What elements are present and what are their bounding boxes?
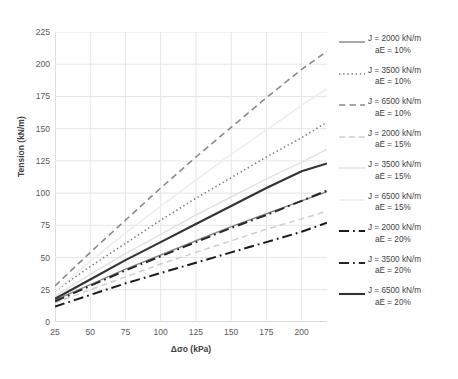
legend-item-4[interactable]: J = 2000 kN/maE = 15%	[339, 128, 456, 152]
legend-item-6[interactable]: J = 6500 kN/maE = 15%	[339, 191, 456, 215]
x-tick-label: 25	[50, 327, 59, 337]
y-tick-label: 75	[41, 220, 50, 230]
legend-swatch-icon	[339, 97, 365, 113]
legend-label: J = 3500 kN/maE = 15%	[368, 159, 421, 182]
chart-legend: J = 2000 kN/maE = 10%J = 3500 kN/maE = 1…	[339, 33, 456, 317]
y-tick-label: 225	[36, 27, 50, 37]
y-tick-label: 0	[45, 317, 50, 327]
x-tick-label: 125	[189, 327, 203, 337]
x-tick-label: 75	[121, 327, 130, 337]
x-tick-label: 150	[224, 327, 238, 337]
series-line-7	[55, 223, 327, 307]
legend-swatch-icon	[339, 192, 365, 208]
x-tick-label: 175	[259, 327, 273, 337]
series-line-6	[55, 89, 327, 291]
legend-label: J = 2000 kN/maE = 15%	[368, 128, 421, 151]
legend-item-9[interactable]: J = 6500 kN/maE = 20%	[339, 285, 456, 309]
series-line-3	[55, 51, 327, 286]
x-tick-label: 100	[154, 327, 168, 337]
plot-area-wrapper: 0255075100125150175200225 25507510012515…	[55, 32, 327, 322]
chart-container: ...... ........ Tension (kN/m) 025507510…	[0, 0, 458, 379]
legend-label: J = 6500 kN/maE = 15%	[368, 191, 421, 214]
legend-label: J = 6500 kN/maE = 20%	[368, 285, 421, 308]
legend-swatch-icon	[339, 34, 365, 50]
legend-item-3[interactable]: J = 6500 kN/maE = 10%	[339, 96, 456, 120]
legend-item-5[interactable]: J = 3500 kN/maE = 15%	[339, 159, 456, 183]
x-tick-label: 50	[85, 327, 94, 337]
y-tick-label: 25	[41, 285, 50, 295]
legend-swatch-icon	[339, 223, 365, 239]
legend-swatch-icon	[339, 129, 365, 145]
legend-label: J = 3500 kN/maE = 10%	[368, 65, 421, 88]
x-tick-label: 200	[295, 327, 309, 337]
legend-label: J = 6500 kN/maE = 10%	[368, 96, 421, 119]
legend-swatch-icon	[339, 160, 365, 176]
series-line-5	[55, 149, 327, 296]
y-axis-title: Tension (kN/m)	[16, 116, 26, 177]
legend-item-1[interactable]: J = 2000 kN/maE = 10%	[339, 33, 456, 57]
legend-item-7[interactable]: J = 2000 kN/maE = 20%	[339, 222, 456, 246]
bottom-cropped-artifact: ... .... ... .. ...	[150, 369, 440, 377]
legend-swatch-icon	[339, 66, 365, 82]
y-tick-label: 150	[36, 124, 50, 134]
y-tick-label: 125	[36, 156, 50, 166]
legend-label: J = 2000 kN/maE = 20%	[368, 222, 421, 245]
x-axis-title: Δσo (kPa)	[55, 344, 327, 354]
y-tick-label: 175	[36, 91, 50, 101]
legend-label: J = 3500 kN/maE = 20%	[368, 254, 421, 277]
y-tick-label: 100	[36, 188, 50, 198]
legend-swatch-icon	[339, 255, 365, 271]
top-cropped-artifact: ...... ........	[150, 1, 330, 8]
legend-item-2[interactable]: J = 3500 kN/maE = 10%	[339, 65, 456, 89]
legend-item-8[interactable]: J = 3500 kN/maE = 20%	[339, 254, 456, 278]
legend-label: J = 2000 kN/maE = 10%	[368, 33, 421, 56]
y-tick-label: 200	[36, 59, 50, 69]
y-tick-label: 50	[41, 253, 50, 263]
chart-plot-svg	[55, 32, 327, 322]
legend-swatch-icon	[339, 286, 365, 302]
